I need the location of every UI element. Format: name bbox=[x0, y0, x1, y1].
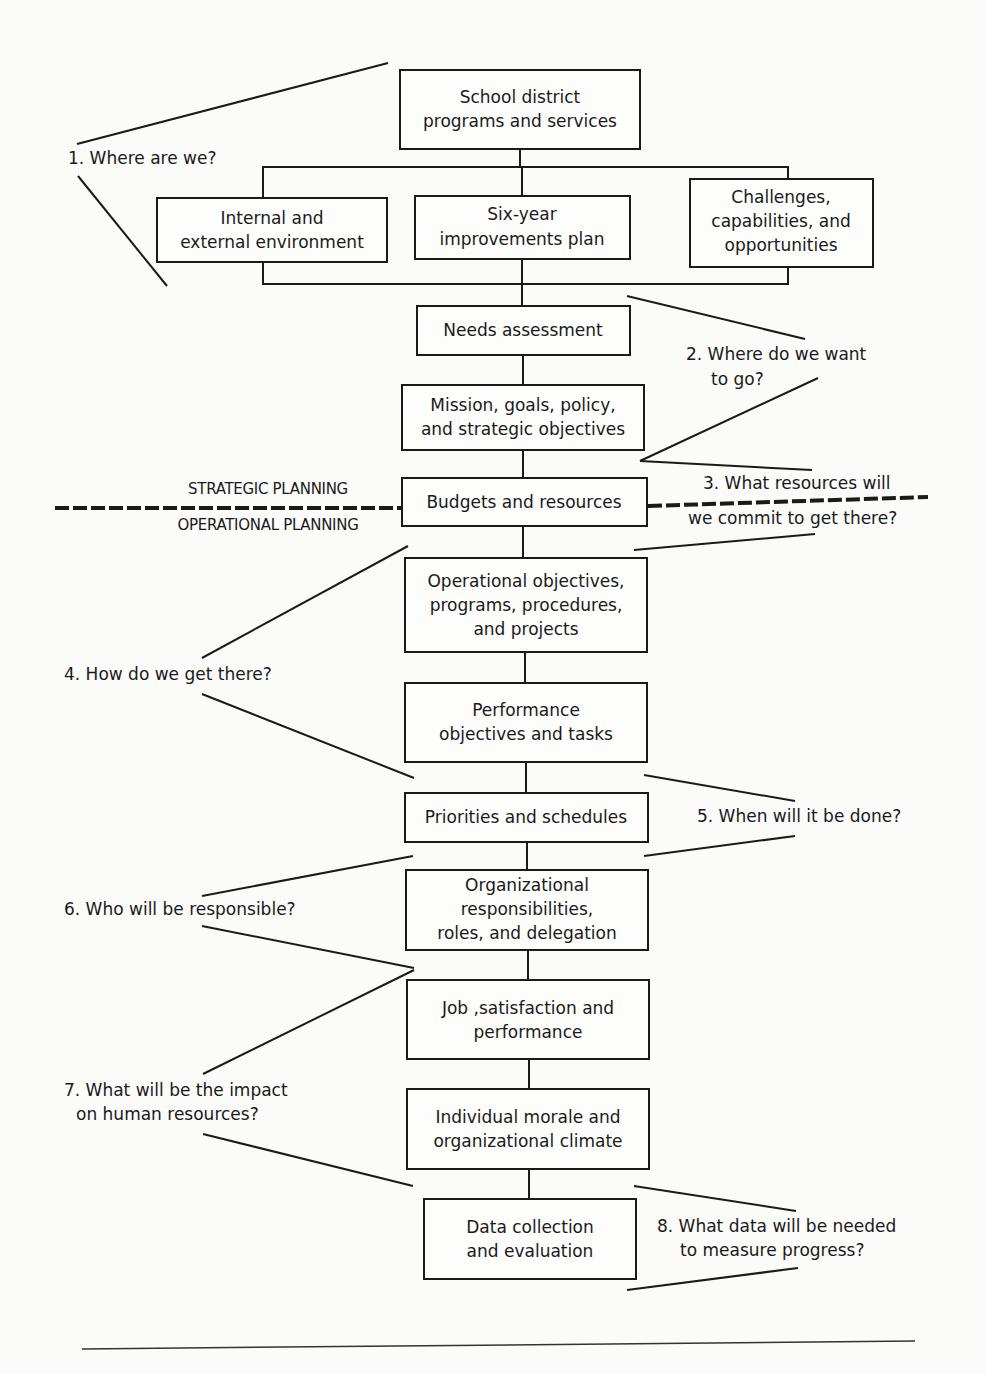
bottom-rule bbox=[82, 1341, 915, 1349]
question-5: 5. When will it be done? bbox=[697, 806, 901, 826]
svg-text:to measure progress?: to measure progress? bbox=[680, 1240, 864, 1260]
svg-text:improvements plan: improvements plan bbox=[439, 229, 604, 249]
svg-text:8. What data will be needed: 8. What data will be needed bbox=[657, 1216, 896, 1236]
question-4: 4. How do we get there? bbox=[64, 664, 272, 684]
svg-text:5. When will it be done?: 5. When will it be done? bbox=[697, 806, 901, 826]
divider-right bbox=[648, 497, 928, 506]
svg-text:and strategic objectives: and strategic objectives bbox=[421, 419, 625, 439]
box-needs-assessment: Needs assessment bbox=[417, 306, 630, 355]
box-individual-morale: Individual morale and organizational cli… bbox=[407, 1089, 649, 1169]
svg-text:Data collection: Data collection bbox=[466, 1217, 594, 1237]
svg-text:organizational climate: organizational climate bbox=[433, 1131, 622, 1151]
planning-flowchart: STRATEGIC PLANNING OPERATIONAL PLANNING … bbox=[0, 0, 986, 1374]
question-8: 8. What data will be needed to measure p… bbox=[657, 1216, 896, 1260]
question-1: 1. Where are we? bbox=[68, 148, 216, 168]
box-operational-objectives: Operational objectives, programs, proced… bbox=[405, 558, 647, 652]
svg-text:Job ,satisfaction and: Job ,satisfaction and bbox=[441, 998, 614, 1018]
box-school-district: School district programs and services bbox=[400, 70, 640, 149]
svg-text:objectives and tasks: objectives and tasks bbox=[439, 724, 613, 744]
svg-text:Performance: Performance bbox=[472, 700, 580, 720]
svg-text:1. Where are we?: 1. Where are we? bbox=[68, 148, 216, 168]
box-organizational-responsibilities: Organizational responsibilities, roles, … bbox=[406, 870, 648, 950]
operational-planning-label: OPERATIONAL PLANNING bbox=[178, 516, 359, 534]
box-priorities-schedules: Priorities and schedules bbox=[405, 793, 648, 842]
box-six-year-plan: Six-year improvements plan bbox=[415, 196, 630, 259]
svg-text:Individual morale and: Individual morale and bbox=[435, 1107, 620, 1127]
svg-text:roles, and delegation: roles, and delegation bbox=[437, 923, 616, 943]
box-challenges: Challenges, capabilities, and opportunit… bbox=[690, 179, 873, 267]
svg-text:2. Where do we want: 2. Where do we want bbox=[686, 344, 867, 364]
svg-text:4. How do we get there?: 4. How do we get there? bbox=[64, 664, 272, 684]
box-internal-external-environment: Internal and external environment bbox=[157, 198, 387, 262]
svg-text:external environment: external environment bbox=[180, 232, 364, 252]
svg-text:Internal and: Internal and bbox=[221, 208, 324, 228]
svg-text:3. What resources will: 3. What resources will bbox=[703, 473, 891, 493]
svg-text:Needs assessment: Needs assessment bbox=[443, 320, 603, 340]
box-data-collection: Data collection and evaluation bbox=[424, 1199, 636, 1279]
box-performance-objectives: Performance objectives and tasks bbox=[405, 683, 647, 762]
box-budgets-resources: Budgets and resources bbox=[402, 478, 647, 526]
svg-text:opportunities: opportunities bbox=[724, 235, 837, 255]
box-mission-goals: Mission, goals, policy, and strategic ob… bbox=[402, 385, 644, 450]
svg-text:Operational objectives,: Operational objectives, bbox=[427, 571, 624, 591]
svg-text:Mission, goals, policy,: Mission, goals, policy, bbox=[430, 395, 615, 415]
question-6: 6. Who will be responsible? bbox=[64, 899, 296, 919]
svg-text:Six-year: Six-year bbox=[487, 204, 556, 224]
svg-text:Challenges,: Challenges, bbox=[731, 187, 830, 207]
svg-text:and evaluation: and evaluation bbox=[467, 1241, 594, 1261]
svg-text:on human resources?: on human resources? bbox=[76, 1104, 259, 1124]
svg-text:School district: School district bbox=[460, 87, 581, 107]
question-2: 2. Where do we want to go? bbox=[686, 344, 867, 389]
svg-text:programs and services: programs and services bbox=[423, 111, 617, 131]
svg-text:to go?: to go? bbox=[711, 369, 764, 389]
svg-text:Organizational: Organizational bbox=[465, 875, 589, 895]
svg-text:responsibilities,: responsibilities, bbox=[461, 899, 594, 919]
svg-text:7. What will be the impact: 7. What will be the impact bbox=[64, 1080, 288, 1100]
svg-text:6. Who will be responsible?: 6. Who will be responsible? bbox=[64, 899, 296, 919]
svg-text:and projects: and projects bbox=[473, 619, 578, 639]
svg-text:programs, procedures,: programs, procedures, bbox=[430, 595, 623, 615]
svg-text:Priorities and schedules: Priorities and schedules bbox=[425, 807, 627, 827]
svg-text:we commit to get there?: we commit to get there? bbox=[688, 508, 897, 528]
strategic-planning-label: STRATEGIC PLANNING bbox=[188, 480, 348, 498]
svg-text:performance: performance bbox=[474, 1022, 583, 1042]
box-job-satisfaction: Job ,satisfaction and performance bbox=[407, 980, 649, 1059]
svg-text:capabilities, and: capabilities, and bbox=[711, 211, 850, 231]
question-7: 7. What will be the impact on human reso… bbox=[64, 1080, 288, 1124]
svg-text:Budgets and resources: Budgets and resources bbox=[426, 492, 621, 512]
